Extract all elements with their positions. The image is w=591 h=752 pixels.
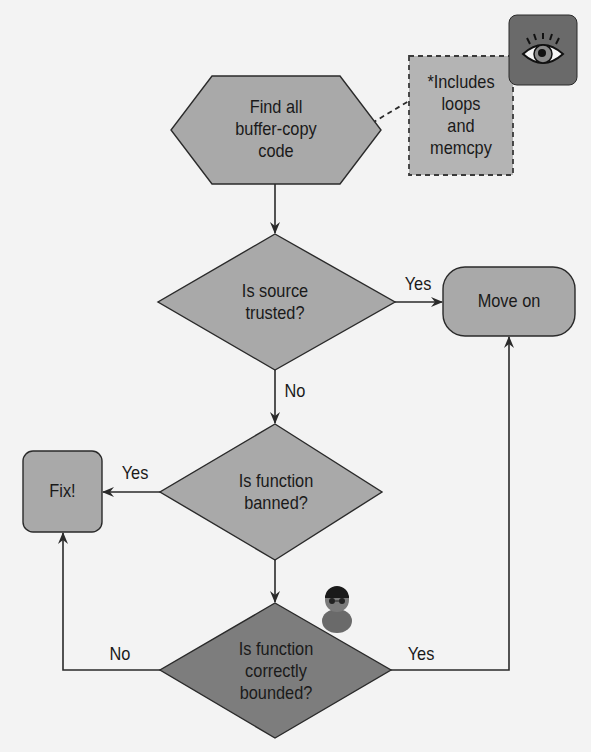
move-on-label: Move on	[452, 290, 566, 312]
note-connector	[372, 101, 409, 123]
note-label: *Includes loops and memcpy	[418, 71, 504, 159]
edge-label-banned-yes: Yes	[118, 462, 152, 484]
eye-icon	[509, 15, 577, 85]
edge-label-bounded-no: No	[107, 643, 133, 665]
banned-decision-label: Is function banned?	[212, 470, 341, 514]
hacker-person-icon	[322, 586, 352, 633]
fix-label: Fix!	[29, 480, 97, 502]
start-node-label: Find all buffer-copy code	[207, 96, 345, 162]
edge-bounded-yes	[391, 337, 509, 670]
trusted-decision-label: Is source trusted?	[215, 280, 335, 324]
bounded-decision-label: Is function correctly bounded?	[212, 638, 341, 704]
edge-label-trusted-no: No	[282, 380, 308, 402]
edge-label-bounded-yes: Yes	[404, 643, 438, 665]
edge-label-trusted-yes: Yes	[401, 273, 435, 295]
